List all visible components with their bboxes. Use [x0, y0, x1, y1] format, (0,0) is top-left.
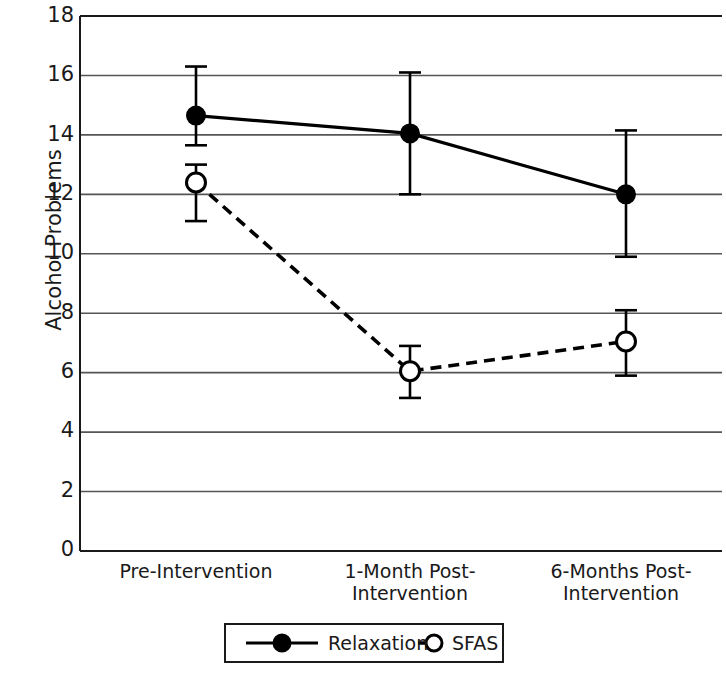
chart-figure: Alcohol Problems 18 16 14 12 10 8 6 4 2 … [0, 0, 726, 678]
x-tick-label-0: Pre-Intervention [86, 560, 306, 582]
series-line-sfas [196, 182, 626, 371]
x-tick-label-2: 6-Months Post- Intervention [516, 560, 726, 605]
x-tick-label-1: 1-Month Post- Intervention [300, 560, 520, 605]
data-point-relaxation [401, 124, 419, 142]
data-point-sfas [401, 362, 420, 381]
data-point-relaxation [617, 185, 635, 203]
legend-label-sfas: SFAS [452, 634, 498, 653]
data-point-sfas [617, 332, 636, 351]
data-point-sfas [187, 173, 206, 192]
data-point-relaxation [187, 107, 205, 125]
legend-label-relaxation: Relaxation [328, 634, 428, 653]
